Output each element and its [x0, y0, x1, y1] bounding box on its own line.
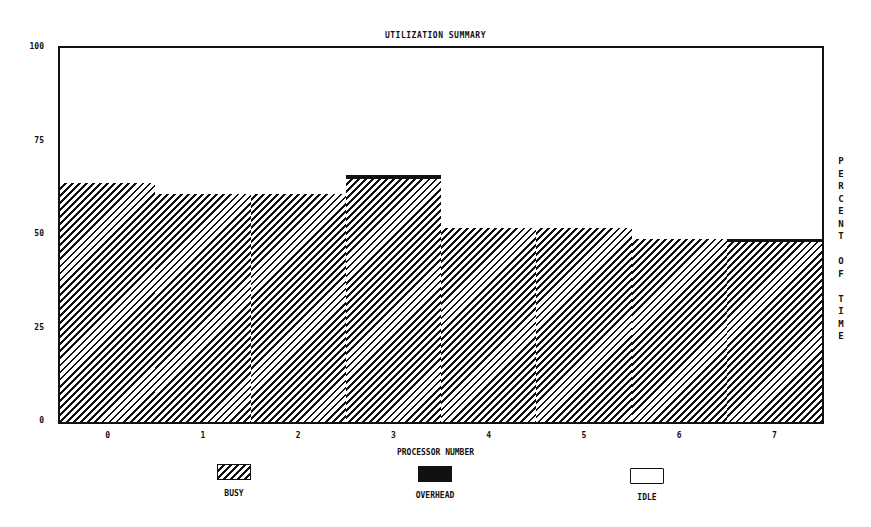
x-tick-label: 2 [288, 431, 308, 440]
x-tick-label: 0 [98, 431, 118, 440]
legend-idle: IDLE [625, 468, 669, 502]
y-axis-label-letter: F [836, 268, 846, 281]
busy-segment [346, 179, 441, 422]
busy-segment [441, 228, 536, 422]
legend-overhead: OVERHEAD [405, 466, 465, 500]
bar-processor-0 [60, 183, 155, 422]
busy-segment [60, 183, 155, 422]
y-axis-label-letter: I [836, 305, 846, 318]
y-axis-label-letter: E [836, 330, 846, 343]
y-axis-label-letter: R [836, 180, 846, 193]
bar-processor-4 [441, 228, 536, 422]
overhead-segment [727, 239, 822, 243]
bar-processor-3 [346, 175, 441, 422]
busy-segment [251, 194, 346, 422]
legend-busy: BUSY [212, 464, 256, 498]
overhead-segment [346, 175, 441, 179]
x-tick-label: 1 [193, 431, 213, 440]
y-axis-label-letter: T [836, 293, 846, 306]
y-axis-label-letter: C [836, 193, 846, 206]
plot-area [58, 46, 824, 424]
x-tick-label: 7 [764, 431, 784, 440]
y-axis-label-letter: M [836, 318, 846, 331]
busy-segment [155, 194, 250, 422]
y-tick-label: 100 [14, 42, 44, 51]
bar-processor-1 [155, 194, 250, 422]
y-tick-label: 75 [14, 136, 44, 145]
bar-processor-6 [632, 239, 727, 422]
y-axis-label-letter: O [836, 255, 846, 268]
legend-idle-label: IDLE [637, 493, 656, 502]
busy-segment [632, 239, 727, 422]
legend-overhead-label: OVERHEAD [416, 491, 455, 500]
idle-swatch-icon [630, 468, 664, 484]
y-axis-label-letter: P [836, 155, 846, 168]
legend-busy-label: BUSY [224, 489, 243, 498]
y-tick-label: 0 [14, 416, 44, 425]
busy-swatch-icon [217, 464, 251, 480]
bar-processor-5 [536, 228, 631, 422]
y-axis-label-letter [836, 243, 846, 256]
x-axis-label: PROCESSOR NUMBER [0, 448, 871, 457]
y-tick-label: 50 [14, 229, 44, 238]
y-axis-label-letter: E [836, 168, 846, 181]
bar-processor-2 [251, 194, 346, 422]
busy-segment [727, 242, 822, 422]
y-axis-label-letter: E [836, 205, 846, 218]
y-axis-label: PERCENT OF TIME [836, 155, 846, 343]
y-axis-label-letter [836, 280, 846, 293]
busy-segment [536, 228, 631, 422]
y-axis-label-letter: T [836, 230, 846, 243]
bar-processor-7 [727, 239, 822, 422]
x-tick-label: 4 [479, 431, 499, 440]
x-tick-label: 5 [574, 431, 594, 440]
x-tick-label: 3 [383, 431, 403, 440]
overhead-swatch-icon [418, 466, 452, 482]
chart-title: UTILIZATION SUMMARY [0, 31, 871, 40]
y-tick-label: 25 [14, 323, 44, 332]
x-tick-label: 6 [669, 431, 689, 440]
y-axis-label-letter: N [836, 218, 846, 231]
